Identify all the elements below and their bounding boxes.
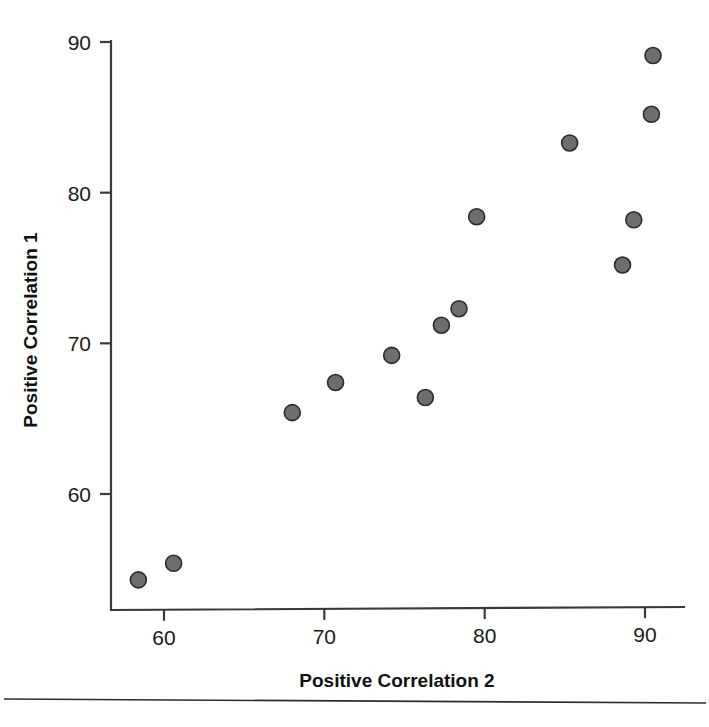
scatter-point: [130, 572, 146, 588]
scatter-point: [615, 257, 631, 273]
y-axis-title: Positive Correlation 1: [20, 232, 41, 428]
x-axis-title: Positive Correlation 2: [299, 670, 494, 691]
y-tick-label: 70: [68, 332, 91, 355]
x-tick-label: 60: [152, 626, 175, 649]
scatter-point: [643, 106, 659, 122]
scatter-point: [626, 212, 642, 228]
scatter-point: [384, 347, 400, 363]
scatter-point: [451, 301, 467, 317]
x-tick-label: 70: [313, 625, 336, 648]
scatter-point: [645, 48, 661, 64]
x-tick-label: 80: [473, 624, 496, 647]
y-axis-ticks: 60708090: [68, 31, 111, 506]
x-axis-line: [111, 607, 684, 610]
scatter-point: [328, 375, 344, 391]
scatter-point: [469, 209, 485, 225]
y-tick-label: 80: [68, 182, 91, 205]
footer-divider: [4, 699, 706, 703]
scatter-markers-group: [130, 48, 661, 588]
x-tick-label: 90: [633, 623, 656, 646]
y-tick-label: 60: [68, 483, 91, 506]
scatter-plot-figure: 60708090 60708090 Positive Correlation 2…: [0, 0, 709, 727]
scatter-point: [433, 317, 449, 333]
plot-canvas: 60708090 60708090 Positive Correlation 2…: [0, 0, 709, 727]
x-axis-ticks: 60708090: [152, 607, 656, 649]
scatter-point: [562, 135, 578, 151]
scatter-point: [417, 390, 433, 406]
scatter-point: [284, 405, 300, 421]
y-tick-label: 90: [68, 31, 91, 54]
scatter-point: [166, 555, 182, 571]
